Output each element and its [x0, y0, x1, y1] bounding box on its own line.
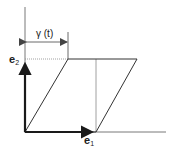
- sheared-parallelogram: [25, 59, 137, 132]
- e1-label: e1: [84, 134, 94, 147]
- e2-label: e2: [9, 53, 19, 66]
- shear-diagram: [0, 0, 176, 150]
- gamma-label: γ (t): [36, 28, 53, 39]
